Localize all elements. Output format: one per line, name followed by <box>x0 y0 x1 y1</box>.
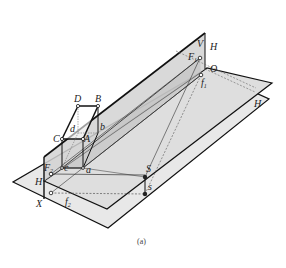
label-a: a <box>86 164 91 175</box>
point-s <box>143 192 147 196</box>
point-D <box>76 104 79 107</box>
point-a <box>82 167 85 170</box>
point-B <box>96 104 99 107</box>
label-S: S <box>146 163 151 174</box>
label-c: c <box>64 162 69 173</box>
perspective-projection-diagram: V H O H H X F1 f1 F2 f2 S s D B C A d b … <box>0 0 286 268</box>
label-H-left: H <box>34 176 43 187</box>
label-C: C <box>53 133 60 144</box>
label-A: A <box>83 133 91 144</box>
label-O: O <box>210 63 217 74</box>
label-X: X <box>35 198 43 209</box>
figure-caption: (a) <box>137 237 146 246</box>
point-S <box>143 175 147 179</box>
label-H-top: H <box>209 41 218 52</box>
label-b: b <box>100 121 105 132</box>
label-s: s <box>148 181 152 192</box>
label-B: B <box>95 93 101 104</box>
label-D: D <box>73 93 82 104</box>
point-C <box>60 137 63 140</box>
label-H-right: H <box>253 98 262 109</box>
point-f2 <box>49 191 53 195</box>
point-F1 <box>198 56 202 60</box>
point-c <box>61 167 64 170</box>
